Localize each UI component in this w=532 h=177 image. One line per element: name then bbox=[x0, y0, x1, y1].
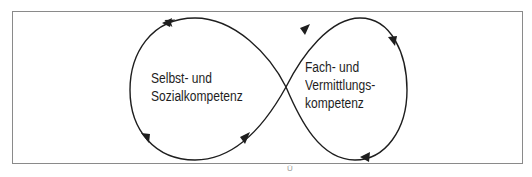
right-loop-label: Fach- und Vermittlungs- kompetenz bbox=[305, 58, 375, 112]
left-label-line-1: Selbst- und bbox=[151, 69, 243, 87]
arrow-top-right-icon bbox=[300, 24, 310, 35]
right-label-line-1: Fach- und bbox=[305, 58, 375, 76]
arrow-bottom-left-icon bbox=[141, 133, 150, 143]
right-label-line-3: kompetenz bbox=[305, 94, 375, 112]
infinity-loop-diagram bbox=[0, 0, 532, 177]
arrow-bottom-right-icon bbox=[360, 152, 370, 162]
right-label-line-2: Vermittlungs- bbox=[305, 76, 375, 94]
left-loop-label: Selbst- und Sozialkompetenz bbox=[151, 69, 243, 105]
left-label-line-2: Sozialkompetenz bbox=[151, 87, 243, 105]
bottom-artifact-text: Ü bbox=[287, 164, 293, 173]
arrow-right-icon bbox=[388, 36, 397, 46]
